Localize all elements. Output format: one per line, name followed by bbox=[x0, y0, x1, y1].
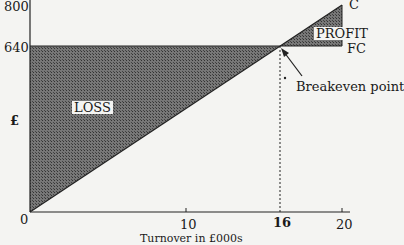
y-tick-640: 640 bbox=[4, 41, 29, 54]
breakeven-arrow bbox=[284, 52, 302, 76]
y-axis-label: £ bbox=[10, 114, 19, 127]
x-tick-10: 10 bbox=[180, 218, 197, 231]
breakeven-label: Breakeven point bbox=[296, 80, 404, 93]
c-label: C bbox=[349, 0, 359, 11]
fc-label: FC bbox=[347, 42, 366, 55]
y-tick-800: 800 bbox=[4, 0, 29, 13]
y-tick-0: 0 bbox=[20, 213, 28, 226]
loss-label: LOSS bbox=[72, 101, 113, 114]
x-axis-label: Turnover in £000s bbox=[140, 233, 243, 244]
profit-label: PROFIT bbox=[314, 27, 370, 40]
x-tick-20: 20 bbox=[336, 218, 353, 231]
x-tick-16: 16 bbox=[273, 216, 291, 229]
